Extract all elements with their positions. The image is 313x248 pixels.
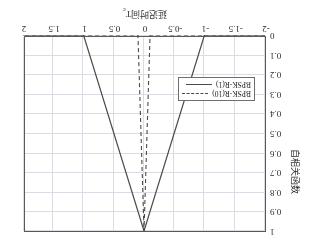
y-tick-label: 0.3 — [270, 90, 294, 100]
y-tick-label: 0.9 — [270, 207, 294, 217]
legend-label-bpsk-r10: BPSK-R(10) — [212, 89, 251, 98]
series-line-bpsk-r1 — [23, 35, 265, 231]
x-tick-label: 0.5 — [100, 24, 130, 34]
y-tick-label: 0.5 — [270, 129, 294, 139]
y-tick-label: 0.1 — [270, 51, 294, 61]
x-tick-label: 1 — [70, 24, 100, 34]
x-tick-label: 0 — [130, 24, 160, 34]
legend-label-bpsk-r1: BPSK-R(1) — [216, 80, 251, 89]
legend-item-bpsk-r1: BPSK-R(1) — [182, 80, 251, 89]
y-tick-label: 0.8 — [270, 188, 294, 198]
x-tick-label: -1.5 — [221, 24, 251, 34]
x-tick-label: -1 — [191, 24, 221, 34]
x-tick-label: 2 — [9, 24, 39, 34]
y-tick-label: 0.6 — [270, 149, 294, 159]
x-axis-label: 延迟时间Tc — [24, 6, 266, 21]
chart-screenshot: 自相关函数 0 0.1 0.2 0.3 0.4 0.5 0.6 0.7 0.8 … — [0, 0, 313, 248]
x-tick-label: -0.5 — [160, 24, 190, 34]
y-tick-label: 1 — [270, 227, 294, 237]
y-tick-label: 0.4 — [270, 109, 294, 119]
autocorrelation-chart: 自相关函数 0 0.1 0.2 0.3 0.4 0.5 0.6 0.7 0.8 … — [0, 0, 313, 248]
legend: BPSK-R(10) BPSK-R(1) — [178, 77, 255, 101]
x-tick-label: 1.5 — [39, 24, 69, 34]
series-line-bpsk-r10 — [23, 35, 265, 231]
x-axis-label-subscript: c — [123, 6, 126, 14]
y-tick-label: 0.7 — [270, 168, 294, 178]
x-tick-label: -2 — [251, 24, 281, 34]
y-tick-label: 0.2 — [270, 70, 294, 80]
legend-swatch-dashed — [182, 93, 208, 94]
x-axis-label-text: 延迟时间T — [126, 9, 168, 19]
legend-swatch-solid — [186, 84, 212, 85]
plot-area: BPSK-R(10) BPSK-R(1) — [24, 36, 266, 232]
data-curves — [23, 35, 265, 231]
rotated-figure-container: 自相关函数 0 0.1 0.2 0.3 0.4 0.5 0.6 0.7 0.8 … — [0, 0, 313, 248]
legend-item-bpsk-r10: BPSK-R(10) — [182, 89, 251, 98]
